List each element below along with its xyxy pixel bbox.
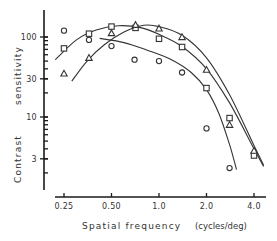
x-axis-unit: (cycles/deg) [195,221,247,231]
triangle-marker [226,122,232,128]
square-marker [227,115,232,120]
circle-marker [179,70,184,75]
plot-area [55,22,263,171]
circle-marker [204,126,209,131]
y-axis: 10030103 Contrast sensitivity [13,10,48,190]
x-tick-label: 4.0 [247,202,261,211]
circle-marker [156,58,161,63]
y-tick-label: 3 [32,155,37,164]
fit-curve-squares [55,26,263,167]
triangle-marker [203,67,209,73]
x-ticks: 0.250.501.02.04.0 [54,193,260,211]
x-axis: 0.250.501.02.04.0 Spatial frequency (cyc… [54,193,266,231]
triangle-marker [61,70,67,76]
circle-marker [132,57,137,62]
triangle-marker [132,22,138,28]
series-triangles [61,22,264,166]
square-marker [179,44,184,49]
y-tick-label: 30 [26,75,37,84]
circle-marker [109,43,114,48]
fit-curve-triangles [72,25,264,165]
y-tick-label: 10 [26,113,37,122]
y-tick-label: 100 [21,33,37,42]
x-tick-label: 0.25 [54,202,73,211]
square-marker [156,36,161,41]
x-axis-title: Spatial frequency [82,221,181,231]
square-marker [86,31,91,36]
square-marker [109,24,114,29]
x-tick-label: 2.0 [200,202,214,211]
circle-marker [61,28,66,33]
square-marker [61,46,66,51]
square-marker [204,85,209,90]
series-squares [55,24,263,167]
circle-marker [86,37,91,42]
series-circles [61,28,236,171]
y-axis-title-sensitivity: sensitivity [13,46,23,105]
circle-marker [227,165,232,170]
x-tick-label: 0.50 [102,202,121,211]
fit-curve-circles [100,38,237,169]
triangle-marker [86,55,92,61]
contrast-sensitivity-chart: 10030103 Contrast sensitivity 0.250.501.… [0,0,277,241]
x-tick-label: 1.0 [152,202,166,211]
y-axis-title-contrast: Contrast [13,135,23,183]
triangle-marker [108,30,114,36]
